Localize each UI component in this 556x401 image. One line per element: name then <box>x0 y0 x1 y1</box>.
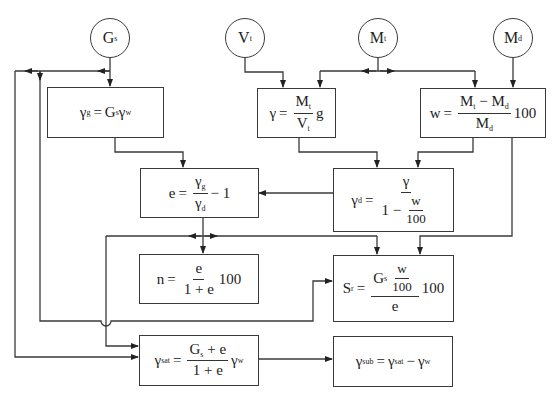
wire-mt-branch <box>320 58 475 71</box>
box-gamma-sat: γsat = Gs + e 1 + e γw <box>139 335 259 386</box>
input-vt: Vt <box>225 18 265 58</box>
box-sr: Sr = Gs w 100 e 100 <box>333 255 454 322</box>
fraction: w 100 <box>404 194 428 227</box>
box-e: e = γg γd − 1 <box>140 168 259 218</box>
fraction: Mt Vt <box>294 93 314 132</box>
box-gamma-sub: γsub = γsat − γw <box>333 336 453 387</box>
fraction: e 1 + e <box>182 260 216 298</box>
box-gamma-d: γd = γ 1 − w 100 <box>333 168 454 232</box>
wire-vt-gamma <box>245 58 283 87</box>
wire-gamma-gammad <box>299 137 377 167</box>
fraction: γ 1 − w 100 <box>379 173 432 226</box>
input-gs: Gs <box>90 18 130 58</box>
fraction: Mt − Md Md <box>458 93 511 132</box>
wire-e-gammasat <box>106 236 138 346</box>
wire-w-gammad <box>418 137 473 167</box>
box-gamma: γ = Mt Vt g <box>257 88 336 138</box>
fraction: γg γd <box>193 173 208 212</box>
fraction: w 100 <box>390 262 414 295</box>
input-md: Md <box>493 18 533 58</box>
box-gamma-g: γg = Gs γw <box>47 87 164 138</box>
box-w: w = Mt − Md Md 100 <box>420 88 546 138</box>
wire-gammag-e <box>115 137 183 167</box>
connector-lines <box>0 0 556 401</box>
input-mt: Mt <box>358 18 398 58</box>
fraction: Gs w 100 e <box>371 262 418 315</box>
box-n: n = e 1 + e 100 <box>139 254 259 304</box>
fraction: Gs + e 1 + e <box>187 341 228 379</box>
